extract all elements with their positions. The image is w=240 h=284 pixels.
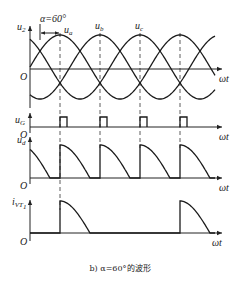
ud-wave [30,145,215,178]
u2-panel: u2 O ωt ua ub uc α=60° [17,13,229,108]
u2-origin-label: O [20,71,27,82]
alpha-label: α=60° [40,13,66,24]
uc-label: uc [135,20,144,33]
gate-pulses [60,117,187,127]
uc-wave [30,35,215,99]
firing-guide-lines [60,33,180,210]
figure-caption: b) α=60°的波形 [0,262,240,273]
ivt1-axis-label: iVT1 [12,196,26,211]
ug-axis-label: uG [15,114,25,127]
ivt1-origin-label: O [20,236,27,247]
u2-axis-label: u2 [17,21,26,34]
ud-x-label: ωt [219,182,229,193]
ug-x-label: ωt [219,131,229,142]
ua-wave [30,35,215,99]
ud-origin-label: O [20,180,27,191]
ua-label: ua [64,24,73,37]
u2-x-label: ωt [219,73,229,84]
ud-panel: ud O ωt [17,134,229,193]
waveform-diagram: u2 O ωt ua ub uc α=60° uG O ωt ud O ωt i… [0,0,240,262]
ub-wave [30,35,215,99]
ug-panel: uG O ωt [15,113,229,142]
ivt1-panel: iVT1 O ωt [12,196,222,248]
ivt1-x-label: ωt [212,237,222,248]
ub-label: ub [95,20,104,33]
ivt1-wave [30,201,215,233]
